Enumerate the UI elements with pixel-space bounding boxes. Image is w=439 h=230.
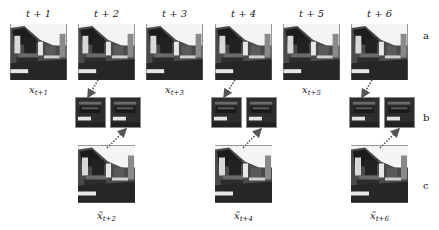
arrow-output-to-patch-1 [107,129,126,148]
arrow-frame-to-patch-2 [224,80,235,97]
arrow-frame-to-patch-3 [362,80,372,97]
dotted-arrows [0,0,439,230]
arrow-frame-to-patch-1 [88,80,98,97]
arrow-output-to-patch-2 [243,129,261,148]
arrow-output-to-patch-3 [380,129,399,148]
